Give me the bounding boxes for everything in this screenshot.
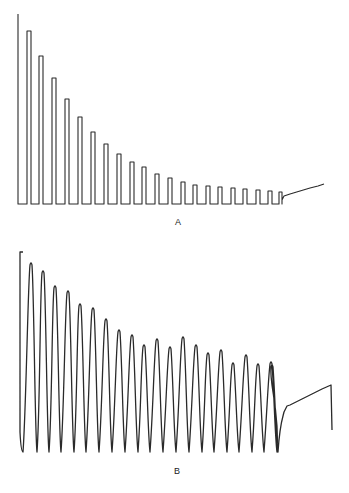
trace-b-oscillations xyxy=(20,252,332,452)
trace-a-square-pulses xyxy=(18,14,324,204)
figure-canvas xyxy=(0,0,349,493)
panel-label-a: A xyxy=(175,217,181,227)
panel-label-b: B xyxy=(174,466,180,476)
trace-b-path xyxy=(20,252,332,452)
trace-a-path xyxy=(18,14,324,204)
